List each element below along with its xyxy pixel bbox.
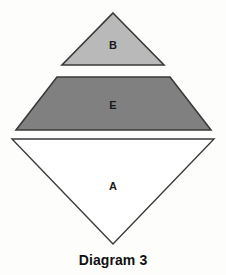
shape-label-a: A (109, 180, 117, 192)
shape-label-e: E (109, 99, 117, 111)
diagram-container: B E A Diagram 3 (0, 0, 226, 275)
shape-label-b: B (109, 39, 117, 51)
diagram-caption: Diagram 3 (0, 252, 226, 268)
